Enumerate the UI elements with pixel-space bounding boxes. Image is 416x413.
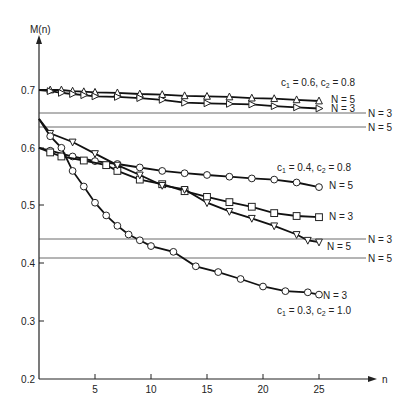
ref-line-label: N = 5 bbox=[368, 122, 393, 133]
circle-marker-icon bbox=[226, 173, 233, 180]
series-label: N = 5 bbox=[329, 180, 354, 191]
svg-text:0.3: 0.3 bbox=[21, 316, 35, 327]
series-label: N = 3 bbox=[323, 290, 348, 301]
circle-marker-icon bbox=[215, 269, 222, 276]
svg-text:0.6: 0.6 bbox=[21, 143, 35, 154]
series-label: N = 3 bbox=[329, 211, 354, 222]
circle-marker-icon bbox=[47, 133, 54, 140]
circle-marker-icon bbox=[114, 222, 121, 229]
circle-marker-icon bbox=[159, 168, 166, 175]
svg-text:20: 20 bbox=[257, 384, 269, 395]
axes bbox=[39, 40, 372, 379]
x-tick-labels: 5 10 15 20 25 bbox=[92, 384, 325, 395]
circle-marker-icon bbox=[125, 231, 132, 238]
square-marker-icon bbox=[271, 210, 278, 217]
circle-marker-icon bbox=[304, 289, 311, 296]
series-layer bbox=[39, 86, 323, 298]
square-marker-icon bbox=[316, 214, 323, 221]
square-marker-icon bbox=[47, 149, 54, 156]
circle-marker-icon bbox=[248, 175, 255, 182]
x-axis-label: n bbox=[382, 374, 388, 385]
annotation-c1-0.3: c1 = 0.3, c2 = 1.0 bbox=[277, 305, 351, 317]
svg-text:5: 5 bbox=[92, 384, 98, 395]
circle-marker-icon bbox=[282, 288, 289, 295]
circle-marker-icon bbox=[69, 168, 76, 175]
circle-marker-icon bbox=[271, 176, 278, 183]
ref-line-label: N = 3 bbox=[368, 108, 393, 119]
series-label: N = 5 bbox=[327, 241, 352, 252]
series-line bbox=[39, 119, 319, 295]
square-marker-icon bbox=[226, 199, 233, 206]
circle-marker-icon bbox=[316, 291, 323, 298]
circle-marker-icon bbox=[170, 248, 177, 255]
x-axis-arrow-icon bbox=[368, 376, 377, 382]
svg-text:15: 15 bbox=[201, 384, 213, 395]
square-marker-icon bbox=[80, 157, 87, 164]
circle-marker-icon bbox=[92, 199, 99, 206]
ref-line-label: N = 3 bbox=[368, 234, 393, 245]
circle-marker-icon bbox=[181, 170, 188, 177]
svg-text:10: 10 bbox=[145, 384, 157, 395]
annotation-c1-0.4: c1 = 0.4, c2 = 0.8 bbox=[277, 162, 351, 174]
circle-marker-icon bbox=[80, 183, 87, 190]
circle-marker-icon bbox=[237, 276, 244, 283]
circle-marker-icon bbox=[103, 212, 110, 219]
chart: M(n) n 0.7 0.6 0.5 0.4 0.3 0.2 5 10 15 2… bbox=[0, 0, 416, 413]
circle-marker-icon bbox=[136, 164, 143, 171]
series-label: N = 3 bbox=[331, 103, 356, 114]
circle-marker-icon bbox=[136, 237, 143, 244]
svg-text:0.2: 0.2 bbox=[21, 374, 35, 385]
triangle-right-marker-icon bbox=[249, 101, 256, 108]
circle-marker-icon bbox=[148, 243, 155, 250]
square-marker-icon bbox=[103, 162, 110, 169]
circle-marker-icon bbox=[316, 184, 323, 191]
svg-text:25: 25 bbox=[313, 384, 325, 395]
square-marker-icon bbox=[248, 203, 255, 210]
y-axis-arrow-icon bbox=[36, 35, 42, 44]
circle-marker-icon bbox=[58, 144, 65, 151]
circle-marker-icon bbox=[293, 179, 300, 186]
x-ticks bbox=[95, 374, 319, 379]
triangle-right-marker-icon bbox=[294, 104, 301, 111]
y-axis-label: M(n) bbox=[30, 24, 51, 35]
triangle-right-marker-icon bbox=[227, 100, 234, 107]
circle-marker-icon bbox=[260, 283, 267, 290]
triangle-right-marker-icon bbox=[271, 103, 278, 110]
y-tick-labels: 0.7 0.6 0.5 0.4 0.3 0.2 bbox=[21, 85, 35, 385]
circle-marker-icon bbox=[204, 172, 211, 179]
svg-text:0.7: 0.7 bbox=[21, 85, 35, 96]
ref-line-label: N = 5 bbox=[368, 253, 393, 264]
circle-marker-icon bbox=[192, 263, 199, 270]
triangle-right-marker-icon bbox=[316, 105, 323, 112]
triangle-right-marker-icon bbox=[182, 99, 189, 106]
svg-text:0.4: 0.4 bbox=[21, 258, 35, 269]
square-marker-icon bbox=[293, 213, 300, 220]
svg-text:0.5: 0.5 bbox=[21, 200, 35, 211]
triangle-right-marker-icon bbox=[204, 100, 211, 107]
annotation-c1-0.6: c1 = 0.6, c2 = 0.8 bbox=[281, 77, 355, 89]
